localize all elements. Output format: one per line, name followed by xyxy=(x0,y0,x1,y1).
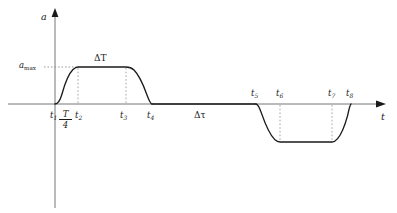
tick-label-t2: t2 xyxy=(75,111,82,120)
x-axis-label: t xyxy=(381,112,385,122)
amax-label: amax xyxy=(19,61,36,70)
tick-label-t6: t6 xyxy=(276,89,283,98)
delta-tau-label: Δτ xyxy=(194,111,205,120)
quarter-period-denominator: 4 xyxy=(59,121,72,130)
curve-positive-pulse xyxy=(55,67,152,104)
quarter-period-label: T 4 xyxy=(59,110,72,130)
tick-label-t1: t1 xyxy=(50,111,57,120)
delta-T-label: ΔT xyxy=(94,54,107,63)
plot-canvas xyxy=(0,0,397,213)
tick-label-t7: t7 xyxy=(328,89,335,98)
tick-label-t4: t4 xyxy=(147,111,154,120)
tick-label-t5: t5 xyxy=(251,89,258,98)
tick-label-t8: t8 xyxy=(346,89,353,98)
quarter-period-numerator: T xyxy=(59,110,72,119)
amax-subscript: max xyxy=(24,65,36,71)
y-axis-arrowhead xyxy=(52,8,59,17)
x-axis-arrowhead xyxy=(376,100,386,107)
figure-acceleration-time: a t amax t1 t2 t3 t4 t5 t6 t7 t8 T 4 ΔT … xyxy=(0,0,397,213)
y-axis-label: a xyxy=(41,12,47,22)
tick-label-t3: t3 xyxy=(120,111,127,120)
curve-negative-pulse xyxy=(256,104,351,142)
